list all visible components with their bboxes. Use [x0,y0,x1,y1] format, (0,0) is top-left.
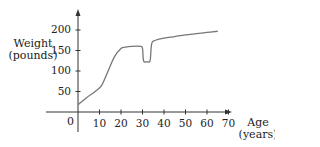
x-tick-label: 50 [179,117,192,129]
axes [46,9,232,132]
x-tick-label: 10 [93,117,106,129]
x-tick-label: 40 [157,117,170,129]
y-tick-label: 50 [45,85,71,97]
x-axis-label: Age (years) [238,117,275,141]
y-tick-label: 150 [45,44,71,56]
x-axis-label-line2: (years) [238,129,275,141]
x-tick-label: 60 [200,117,213,129]
weight-curve [78,31,218,104]
origin-label: 0 [67,116,74,128]
x-tick-label: 20 [114,117,127,129]
y-tick-label: 200 [45,23,71,35]
x-tick-label: 30 [136,117,149,129]
y-axis-arrow-icon [76,9,81,16]
y-tick-label: 100 [45,64,71,76]
x-tick-label: 70 [222,117,235,129]
